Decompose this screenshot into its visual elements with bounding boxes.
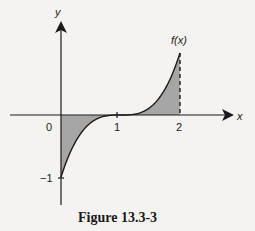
figure: y x 0 1 2 −1 f(x) Figure 13.3-3	[0, 0, 255, 231]
figure-caption: Figure 13.3-3	[78, 210, 157, 225]
x-tick-label-2: 2	[176, 121, 182, 133]
y-axis-label: y	[54, 6, 62, 18]
x-axis-label: x	[236, 110, 243, 122]
y-tick-label-minus1: −1	[40, 172, 53, 184]
x-tick-label-1: 1	[114, 121, 120, 133]
function-label: f(x)	[171, 34, 187, 46]
x-tick-label-0: 0	[46, 121, 52, 133]
